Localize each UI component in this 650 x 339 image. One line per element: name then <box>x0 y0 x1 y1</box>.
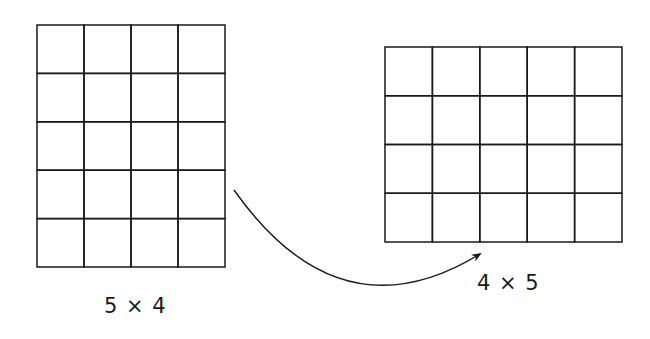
grid-cell <box>432 47 479 96</box>
grid-cell <box>385 96 432 145</box>
grid-cell <box>527 47 574 96</box>
grid-cell <box>385 193 432 242</box>
grid-cell <box>84 73 131 121</box>
grid-cell <box>37 25 84 73</box>
grid-cell <box>385 47 432 96</box>
grid-cell <box>575 96 622 145</box>
grid-cell <box>37 122 84 170</box>
grid-cell <box>84 122 131 170</box>
grid-cell <box>480 47 527 96</box>
grid-cell <box>131 73 178 121</box>
grid-cell <box>527 193 574 242</box>
grid-cell <box>131 122 178 170</box>
grid-cell <box>37 170 84 218</box>
grid-cell <box>131 170 178 218</box>
grid-cell <box>37 219 84 267</box>
grid-cell <box>527 145 574 194</box>
grid-cell <box>527 96 574 145</box>
grid-cell <box>385 145 432 194</box>
diagram-canvas <box>0 0 650 339</box>
grid-cell <box>480 145 527 194</box>
right-grid-4x5 <box>385 47 622 242</box>
right-grid-label: 4 × 5 <box>477 271 540 295</box>
grid-cell <box>178 122 225 170</box>
grid-cell <box>84 219 131 267</box>
grid-cell <box>178 73 225 121</box>
grid-cell <box>432 145 479 194</box>
grid-cell <box>480 96 527 145</box>
grid-cell <box>575 145 622 194</box>
grid-cell <box>131 25 178 73</box>
grid-cell <box>131 219 178 267</box>
left-grid-label: 5 × 4 <box>104 294 167 318</box>
grid-cell <box>178 25 225 73</box>
grid-cell <box>480 193 527 242</box>
grid-cell <box>178 219 225 267</box>
left-grid-5x4 <box>37 25 225 267</box>
grid-cell <box>84 25 131 73</box>
grid-cell <box>432 193 479 242</box>
grid-cell <box>84 170 131 218</box>
grid-cell <box>178 170 225 218</box>
grid-cell <box>575 47 622 96</box>
grid-cell <box>432 96 479 145</box>
grid-cell <box>575 193 622 242</box>
grid-cell <box>37 73 84 121</box>
curved-arrow-icon <box>234 190 480 285</box>
